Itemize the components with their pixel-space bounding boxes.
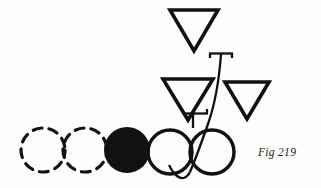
figure-container: Fig 219 <box>0 0 321 188</box>
scientific-figure-drawing <box>0 0 321 188</box>
figure-caption: Fig 219 <box>258 146 296 158</box>
filled-circle <box>104 127 150 173</box>
figure-background <box>0 0 321 188</box>
